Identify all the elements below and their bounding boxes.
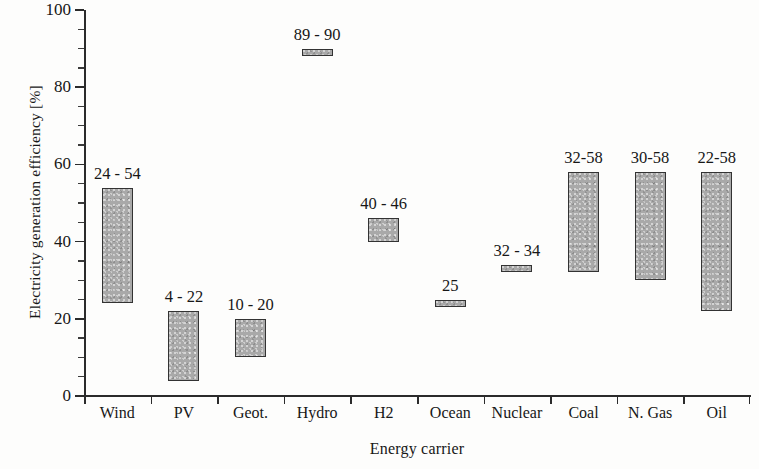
plot-area: 020406080100 xyxy=(84,10,750,396)
y-axis-tick-label: 80 xyxy=(54,77,71,97)
y-axis-minor-tick xyxy=(78,357,84,358)
range-bar xyxy=(102,188,133,304)
bar-value-label: 22-58 xyxy=(697,148,736,168)
x-axis-category-label: PV xyxy=(174,404,194,422)
range-bar xyxy=(302,49,333,56)
y-axis-minor-tick xyxy=(78,48,84,49)
range-bar xyxy=(235,319,266,358)
y-axis-minor-tick xyxy=(78,106,84,107)
bar-value-label: 32 - 34 xyxy=(494,241,541,261)
bar-value-label: 24 - 54 xyxy=(94,164,141,184)
y-axis-minor-tick xyxy=(78,299,84,300)
y-axis-tick xyxy=(75,164,84,166)
range-bar xyxy=(168,311,199,380)
x-axis-tick xyxy=(683,396,685,404)
y-axis-minor-tick xyxy=(78,337,84,338)
x-axis-category-label: Coal xyxy=(568,404,598,422)
efficiency-range-chart: Electricity generation efficiency [%] 02… xyxy=(0,0,759,469)
bar-value-label: 30-58 xyxy=(631,148,670,168)
bar-value-label: 32-58 xyxy=(564,148,603,168)
y-axis-tick xyxy=(75,395,84,397)
y-axis-minor-tick xyxy=(78,183,84,184)
x-axis-tick xyxy=(417,396,419,404)
x-axis-tick xyxy=(84,396,86,404)
range-bar xyxy=(435,300,466,307)
y-axis-tick xyxy=(75,86,84,88)
x-axis-category-label: Wind xyxy=(100,404,135,422)
x-axis-category-label: H2 xyxy=(374,404,394,422)
range-bar xyxy=(501,265,532,273)
bar-value-label: 40 - 46 xyxy=(360,194,407,214)
x-axis-category-label: Nuclear xyxy=(492,404,543,422)
y-axis-tick-label: 0 xyxy=(63,386,72,406)
y-axis-minor-tick xyxy=(78,144,84,145)
x-axis-tick xyxy=(350,396,352,404)
x-axis-tick xyxy=(217,396,219,404)
y-axis-minor-tick xyxy=(78,376,84,377)
x-axis-category-label: Oil xyxy=(706,404,726,422)
range-bar xyxy=(368,218,399,241)
y-axis-minor-tick xyxy=(78,29,84,30)
x-axis-tick xyxy=(151,396,153,404)
x-axis-tick xyxy=(617,396,619,404)
x-axis-category-label: N. Gas xyxy=(628,404,672,422)
y-axis-tick-label: 20 xyxy=(54,309,71,329)
x-axis-category-label: Hydro xyxy=(297,404,338,422)
y-axis-minor-tick xyxy=(78,222,84,223)
bar-value-label: 4 - 22 xyxy=(165,287,204,307)
y-axis-tick-label: 100 xyxy=(46,0,72,20)
y-axis-tick xyxy=(75,241,84,243)
y-axis-minor-tick xyxy=(78,280,84,281)
y-axis-tick-label: 40 xyxy=(54,232,71,252)
bar-value-label: 89 - 90 xyxy=(294,25,341,45)
y-axis-tick xyxy=(75,9,84,11)
y-axis-minor-tick xyxy=(78,67,84,68)
y-axis-minor-tick xyxy=(78,125,84,126)
range-bar xyxy=(568,172,599,272)
x-axis-title: Energy carrier xyxy=(84,440,750,458)
y-axis-minor-tick xyxy=(78,202,84,203)
x-axis-category-label: Ocean xyxy=(430,404,471,422)
x-axis-category-label: Geot. xyxy=(233,404,268,422)
range-bar xyxy=(701,172,732,311)
bar-value-label: 25 xyxy=(442,276,459,296)
range-bar xyxy=(635,172,666,280)
x-axis-tick xyxy=(484,396,486,404)
bar-value-label: 10 - 20 xyxy=(227,295,274,315)
y-axis-title: Electricity generation efficiency [%] xyxy=(26,4,52,400)
y-axis-minor-tick xyxy=(78,260,84,261)
x-axis-tick xyxy=(550,396,552,404)
y-axis-tick xyxy=(75,318,84,320)
x-axis-tick xyxy=(284,396,286,404)
x-axis-tick xyxy=(749,396,751,404)
y-axis-tick-label: 60 xyxy=(54,154,71,174)
